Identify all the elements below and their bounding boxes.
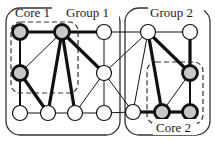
node-L: [126, 105, 141, 120]
group2-label: Group 2: [150, 5, 193, 20]
node-K: [183, 25, 198, 40]
core2-label: Core 2: [156, 120, 191, 135]
network-diagram: Core 1 Group 1 Group 2 Core 2: [0, 0, 215, 145]
core-node-B: [55, 25, 70, 40]
core-node-M: [155, 105, 170, 120]
core-node-D: [13, 66, 28, 81]
core1-label: Core 1: [15, 5, 50, 20]
core-node-A: [13, 25, 28, 40]
node-G: [97, 66, 112, 81]
node-I: [97, 106, 112, 121]
node-E: [41, 106, 56, 121]
node-J: [141, 25, 156, 40]
core-node-N: [183, 66, 198, 81]
core-node-O: [183, 105, 198, 120]
node-C: [97, 25, 112, 40]
nodes: [13, 25, 198, 121]
group1-label: Group 1: [66, 5, 109, 20]
node-H: [13, 106, 28, 121]
node-F: [68, 106, 83, 121]
